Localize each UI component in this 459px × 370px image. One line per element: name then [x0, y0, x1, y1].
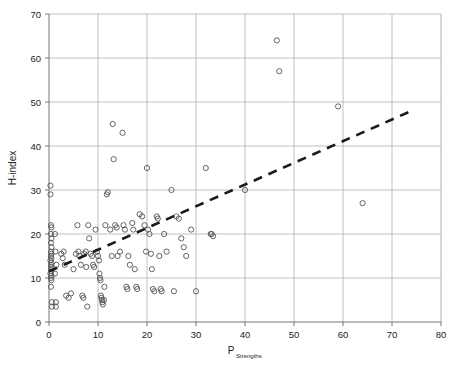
data-point	[110, 121, 115, 126]
trend-line-dashed	[49, 111, 412, 272]
data-point	[103, 223, 108, 228]
data-point	[102, 284, 107, 289]
data-point	[274, 38, 279, 43]
x-tick-label: 50	[289, 329, 300, 340]
y-tick-label: 30	[30, 185, 41, 196]
x-tick-label: 20	[142, 329, 153, 340]
y-axis-title: H-index	[7, 151, 18, 185]
y-tick-label: 50	[30, 97, 41, 108]
data-point	[164, 249, 169, 254]
data-point	[86, 223, 91, 228]
x-axis-title: P	[228, 345, 235, 356]
data-point	[127, 262, 132, 267]
data-point	[78, 262, 83, 267]
data-point	[171, 289, 176, 294]
data-point	[157, 253, 162, 258]
data-point	[117, 249, 122, 254]
data-point	[54, 262, 59, 267]
data-point	[87, 236, 92, 241]
data-points	[48, 38, 365, 309]
x-axis-title-subscript: Strengths	[236, 353, 262, 359]
data-point	[148, 251, 153, 256]
data-point	[189, 227, 194, 232]
data-point	[277, 69, 282, 74]
data-point	[75, 223, 80, 228]
y-tick-label: 10	[30, 273, 41, 284]
axis-ticks	[45, 14, 441, 326]
y-tick-label: 20	[30, 229, 41, 240]
data-point	[130, 220, 135, 225]
data-point	[132, 267, 137, 272]
data-point	[111, 157, 116, 162]
y-tick-label: 0	[36, 317, 41, 328]
y-tick-label: 60	[30, 53, 41, 64]
data-point	[84, 264, 89, 269]
data-point	[184, 253, 189, 258]
x-tick-label: 80	[436, 329, 447, 340]
x-tick-label: 60	[338, 329, 349, 340]
axis-titles: H-index P Strengths	[7, 151, 262, 359]
trend-line	[49, 111, 412, 272]
x-tick-label: 70	[387, 329, 398, 340]
data-point	[93, 227, 98, 232]
data-point	[179, 236, 184, 241]
data-point	[336, 104, 341, 109]
data-point	[126, 253, 131, 258]
data-point	[203, 165, 208, 170]
data-point	[143, 249, 148, 254]
data-point	[131, 227, 136, 232]
data-point	[108, 227, 113, 232]
data-point	[120, 130, 125, 135]
data-point	[71, 267, 76, 272]
x-tick-label: 10	[93, 329, 104, 340]
data-point	[149, 267, 154, 272]
data-point	[181, 245, 186, 250]
data-point	[109, 253, 114, 258]
x-tick-label: 40	[240, 329, 251, 340]
grid-lines	[49, 14, 441, 322]
x-tick-label: 0	[46, 329, 51, 340]
plot-canvas: 01020304050607080010203040506070 H-index…	[0, 0, 459, 370]
data-point	[85, 304, 90, 309]
scatter-plot-figure: 01020304050607080010203040506070 H-index…	[0, 0, 459, 370]
data-point	[360, 201, 365, 206]
y-tick-label: 40	[30, 141, 41, 152]
y-tick-label: 70	[30, 9, 41, 20]
x-tick-label: 30	[191, 329, 202, 340]
data-point	[68, 291, 73, 296]
